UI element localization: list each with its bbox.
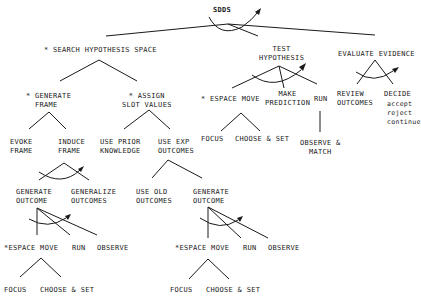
edge (37, 208, 70, 235)
edge-root-search (106, 24, 228, 36)
node-search-hypothesis-space: * SEARCH HYPOTHESIS SPACE (44, 46, 157, 55)
node-choose-set-right: CHOOSE & SET (206, 286, 260, 295)
edge (279, 66, 317, 84)
edge (49, 112, 66, 129)
edge (99, 60, 137, 81)
node-evaluate-evidence: EVALUATE EVIDENCE (338, 50, 415, 59)
node-generate-outcome-right: GENERATE OUTCOME (193, 188, 229, 206)
node-use-exp-outcomes: USE EXP OUTCOMES (158, 138, 194, 156)
node-observe-right: OBSERVE (268, 244, 300, 253)
sequence-arc-induce (39, 170, 80, 179)
edge (149, 110, 170, 129)
node-run-left: RUN (72, 244, 86, 253)
node-generalize-outcomes: GENERALIZE OUTCOMES (71, 188, 116, 206)
node-run-test: RUN (314, 95, 328, 104)
node-espace-move-test: * ESPACE MOVE (201, 95, 260, 104)
edge (37, 208, 97, 235)
node-observe-left: OBSERVE (97, 244, 129, 253)
node-generate-frame: * GENERATE FRAME (26, 92, 71, 110)
edge (20, 258, 41, 277)
node-decide-options: accept reject continue (387, 100, 421, 127)
node-generate-outcome-left: GENERATE OUTCOME (16, 188, 52, 206)
edge (189, 259, 208, 279)
edge (208, 259, 229, 279)
arrowhead-evaluate (392, 67, 399, 73)
node-espace-move-right: *ESPACE MOVE (175, 244, 229, 253)
edge (41, 258, 61, 277)
node-use-prior-knowledge: USE PRIOR KNOWLEDGE (100, 138, 141, 156)
edge (221, 113, 241, 131)
node-decide: DECIDE (384, 90, 411, 99)
edge (208, 207, 268, 238)
edge (168, 160, 202, 178)
node-evoke-frame: EVOKE FRAME (10, 138, 33, 156)
edge (375, 60, 393, 84)
node-focus-left: FOCUS (4, 286, 27, 295)
edge (241, 113, 260, 131)
edge (279, 66, 284, 88)
edge (152, 160, 168, 178)
node-choose-set-test: CHOOSE & SET (235, 135, 289, 144)
node-make-prediction: MAKE PREDICTION (265, 90, 310, 108)
node-espace-move-left: *ESPACE MOVE (4, 244, 58, 253)
edge (208, 207, 241, 238)
node-run-right: RUN (243, 244, 257, 253)
node-use-old-outcomes: USE OLD OUTCOMES (136, 188, 172, 206)
edge (357, 60, 375, 84)
node-review-outcomes: REVIEW OUTCOMES (337, 90, 373, 108)
arrowhead-left-outcome (65, 214, 71, 220)
sequence-arc-test (252, 70, 301, 82)
node-observe-match: OBSERVE & MATCH (300, 139, 341, 157)
edge (60, 60, 99, 81)
node-focus-test: FOCUS (201, 135, 224, 144)
node-focus-right: FOCUS (170, 286, 193, 295)
node-assign-slot-values: * ASSIGN SLOT VALUES (122, 92, 172, 110)
node-test-hypothesis: TEST HYPOTHESIS (259, 45, 304, 63)
edge (29, 112, 49, 129)
edge (124, 110, 149, 129)
node-choose-set-left: CHOOSE & SET (40, 286, 94, 295)
arrowhead-test (299, 63, 306, 71)
node-induce-frame: INDUCE FRAME (58, 138, 85, 156)
node-root: SDDS (213, 6, 231, 15)
arrowhead-right-outcome (237, 216, 243, 222)
